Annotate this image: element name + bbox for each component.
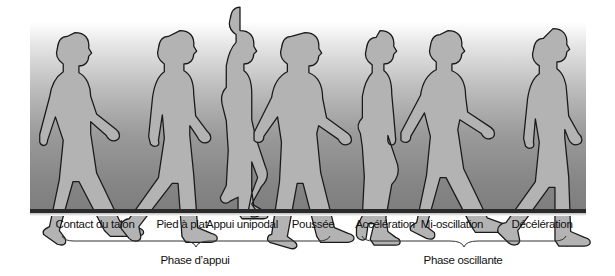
phase-label-oscillante: Phase oscillante (424, 254, 503, 266)
phase-label-appui: Phase d’appui (161, 254, 230, 266)
phase-brackets (0, 0, 615, 276)
bracket-phase-oscillante (362, 236, 566, 247)
bracket-phase-appui (62, 236, 330, 247)
